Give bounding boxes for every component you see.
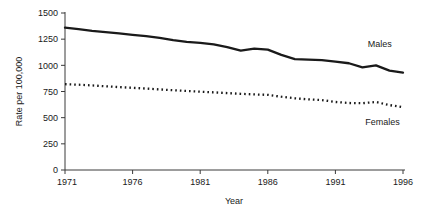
- series-label-males: Males: [368, 39, 393, 49]
- y-tick-label: 1250: [38, 34, 58, 44]
- x-tick-label: 1991: [325, 177, 345, 187]
- series-line-males: [65, 28, 403, 73]
- y-tick-label-group: 0250500750100012501500: [38, 8, 58, 175]
- x-tick-label: 1986: [258, 177, 278, 187]
- x-tick-label: 1981: [190, 177, 210, 187]
- y-axis-title: Rate per 100,000: [14, 57, 24, 127]
- series-label-females: Females: [365, 117, 400, 127]
- x-axis-title: Year: [225, 196, 243, 206]
- series-label-group: MalesFemales: [365, 39, 400, 127]
- x-tick-group: [65, 170, 403, 174]
- series-line-females: [65, 84, 403, 107]
- y-tick-label: 250: [43, 139, 58, 149]
- y-tick-label: 1500: [38, 8, 58, 18]
- y-axis: 0250500750100012501500 Rate per 100,000: [14, 8, 65, 175]
- series-group: [65, 28, 403, 108]
- line-chart: 0250500750100012501500 Rate per 100,000 …: [0, 0, 438, 213]
- y-tick-group: [61, 13, 65, 170]
- x-tick-label: 1996: [393, 177, 413, 187]
- x-tick-label: 1971: [57, 177, 77, 187]
- x-tick-label: 1976: [123, 177, 143, 187]
- y-tick-label: 1000: [38, 61, 58, 71]
- y-tick-label: 500: [43, 113, 58, 123]
- x-axis: 197119761981198619911996 Year: [57, 170, 413, 206]
- chart-canvas: 0250500750100012501500 Rate per 100,000 …: [0, 0, 438, 213]
- y-tick-label: 0: [53, 165, 58, 175]
- x-tick-label-group: 197119761981198619911996: [57, 177, 413, 187]
- y-tick-label: 750: [43, 87, 58, 97]
